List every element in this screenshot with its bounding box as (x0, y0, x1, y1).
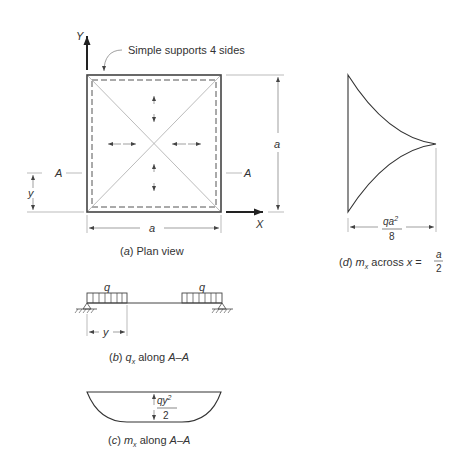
diagram-canvas: Y X Simple supports 4 sides A A (0, 0, 464, 463)
dim-width-label: a (149, 222, 155, 234)
dim-y-b: y (102, 326, 110, 338)
section-label-right: A (243, 167, 251, 179)
dim-height-label: a (274, 138, 280, 150)
load-label-left: q (104, 281, 111, 293)
moment-c-denominator: 2 (163, 410, 169, 421)
panel-a-plan-view: Y X Simple supports 4 sides A A (27, 30, 284, 257)
moment-d-numerator: qa2 (383, 215, 398, 227)
panel-c-moment-along: qy2 2 (c) mx along A–A (87, 392, 221, 448)
panel-b-load-distribution: q q y (b) qx along A (75, 281, 233, 365)
dim-y-label: y (27, 187, 35, 199)
pin-support-right (212, 303, 233, 313)
support-annotation: Simple supports 4 sides (128, 44, 245, 56)
moment-c-numerator: qy2 (157, 394, 172, 406)
moment-curve-d (348, 75, 436, 212)
section-label-left: A (54, 167, 62, 179)
moment-d-denominator: 8 (389, 231, 395, 242)
caption-a: (a) Plan view (120, 245, 184, 257)
caption-d-frac-den: 2 (436, 263, 442, 274)
leader-line (104, 50, 122, 71)
x-axis-label: X (255, 218, 264, 230)
caption-c: (c) mx along A–A (108, 434, 190, 448)
caption-d: (d) mx across x = (339, 256, 422, 270)
caption-b: (b) qx along A–A (109, 351, 189, 365)
caption-d-frac-num: a (436, 249, 442, 260)
pin-support-left (75, 303, 97, 313)
load-label-right: q (199, 281, 206, 293)
panel-d-moment-across: qa2 8 (d) mx across x = a 2 (339, 75, 443, 274)
y-axis-label: Y (76, 30, 84, 42)
